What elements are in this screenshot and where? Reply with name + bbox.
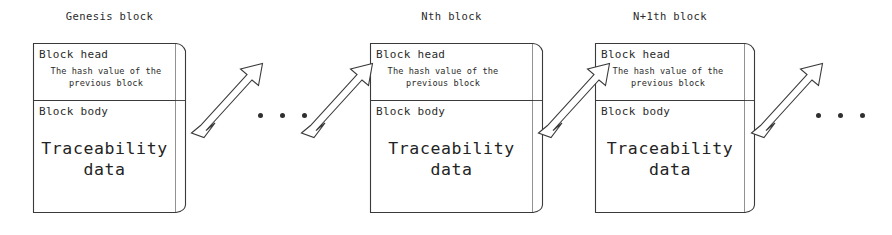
- block-2-body-label: Block body: [376, 105, 445, 118]
- diagram-vector-layer: [0, 0, 892, 235]
- block-1-hash-text: The hash value of the previous block: [38, 66, 174, 90]
- block-3-data-line-1: Traceability: [595, 138, 745, 159]
- block-1-depth-top: [176, 44, 186, 213]
- ellipsis-right: [816, 113, 865, 118]
- block-3-traceability-data: Traceability data: [595, 138, 745, 180]
- block-2-hash-text: The hash value of the previous block: [375, 66, 511, 90]
- block-3-hash-text: The hash value of the previous block: [600, 66, 736, 90]
- ellipsis-dot: [280, 113, 285, 118]
- block-3-body-label: Block body: [601, 105, 670, 118]
- block-2-head-label: Block head: [376, 48, 445, 61]
- ellipsis-dot: [302, 113, 307, 118]
- ellipsis-middle: [258, 113, 307, 118]
- arrow-nplus1-out: [752, 64, 823, 138]
- block-3-depth-top: [745, 44, 755, 213]
- arrow-nth-in: [302, 64, 373, 138]
- block-1-hash-line-2: previous block: [38, 78, 174, 90]
- ellipsis-dot: [258, 113, 263, 118]
- block-3-data-line-2: data: [595, 159, 745, 180]
- block-2-data-line-2: data: [370, 159, 533, 180]
- ellipsis-dot: [860, 113, 865, 118]
- block-2-hash-line-1: The hash value of the: [375, 66, 511, 78]
- block-2-traceability-data: Traceability data: [370, 138, 533, 180]
- block-1-traceability-data: Traceability data: [33, 138, 176, 180]
- block-3-hash-line-2: previous block: [600, 78, 736, 90]
- block-2-hash-line-2: previous block: [375, 78, 511, 90]
- block-1-title: Genesis block: [33, 10, 186, 22]
- block-3-head-label: Block head: [601, 48, 670, 61]
- block-3-title: N+1th block: [595, 10, 745, 22]
- block-2-data-line-1: Traceability: [370, 138, 533, 159]
- block-1-data-line-1: Traceability: [33, 138, 176, 159]
- ellipsis-dot: [838, 113, 843, 118]
- arrow-genesis-out: [192, 64, 263, 138]
- block-1-head-label: Block head: [39, 48, 108, 61]
- block-2-title: Nth block: [370, 10, 533, 22]
- ellipsis-dot: [816, 113, 821, 118]
- block-2-depth-top: [533, 44, 543, 213]
- block-1-hash-line-1: The hash value of the: [38, 66, 174, 78]
- block-3-hash-line-1: The hash value of the: [600, 66, 736, 78]
- block-1-body-label: Block body: [39, 105, 108, 118]
- blockchain-diagram: Genesis block Block head The hash value …: [0, 0, 892, 235]
- block-1-data-line-2: data: [33, 159, 176, 180]
